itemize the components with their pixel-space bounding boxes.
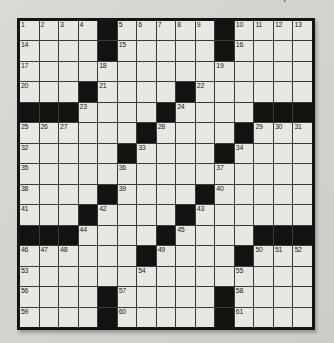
grid-cell[interactable] bbox=[118, 82, 137, 101]
grid-cell[interactable]: 19 bbox=[215, 62, 234, 81]
grid-cell[interactable] bbox=[254, 41, 273, 60]
grid-cell[interactable] bbox=[176, 287, 195, 306]
grid-cell[interactable] bbox=[176, 246, 195, 265]
grid-cell[interactable]: 60 bbox=[118, 308, 137, 327]
grid-cell[interactable] bbox=[176, 144, 195, 163]
grid-cell[interactable] bbox=[98, 267, 117, 286]
grid-cell[interactable]: 13 bbox=[293, 21, 312, 40]
grid-cell[interactable]: 20 bbox=[20, 82, 39, 101]
grid-cell[interactable]: 58 bbox=[235, 287, 254, 306]
grid-cell[interactable]: 50 bbox=[254, 246, 273, 265]
grid-cell[interactable] bbox=[59, 205, 78, 224]
grid-cell[interactable] bbox=[118, 62, 137, 81]
grid-cell[interactable] bbox=[79, 62, 98, 81]
grid-cell[interactable] bbox=[176, 164, 195, 183]
grid-cell[interactable] bbox=[79, 246, 98, 265]
grid-cell[interactable] bbox=[196, 103, 215, 122]
grid-cell[interactable] bbox=[293, 62, 312, 81]
grid-cell[interactable] bbox=[254, 205, 273, 224]
grid-cell[interactable]: 10 bbox=[235, 21, 254, 40]
grid-cell[interactable] bbox=[137, 287, 156, 306]
grid-cell[interactable] bbox=[118, 205, 137, 224]
grid-cell[interactable]: 38 bbox=[20, 185, 39, 204]
grid-cell[interactable] bbox=[293, 308, 312, 327]
grid-cell[interactable] bbox=[157, 267, 176, 286]
grid-cell[interactable] bbox=[137, 226, 156, 245]
grid-cell[interactable] bbox=[79, 287, 98, 306]
grid-cell[interactable] bbox=[79, 144, 98, 163]
grid-cell[interactable]: 34 bbox=[235, 144, 254, 163]
grid-cell[interactable] bbox=[215, 226, 234, 245]
grid-cell[interactable] bbox=[293, 185, 312, 204]
grid-cell[interactable] bbox=[40, 41, 59, 60]
grid-cell[interactable]: 18 bbox=[98, 62, 117, 81]
grid-cell[interactable] bbox=[235, 62, 254, 81]
grid-cell[interactable] bbox=[157, 287, 176, 306]
grid-cell[interactable] bbox=[215, 205, 234, 224]
grid-cell[interactable] bbox=[176, 41, 195, 60]
grid-cell[interactable] bbox=[98, 246, 117, 265]
grid-cell[interactable]: 44 bbox=[79, 226, 98, 245]
grid-cell[interactable] bbox=[196, 246, 215, 265]
grid-cell[interactable] bbox=[176, 123, 195, 142]
grid-cell[interactable] bbox=[157, 164, 176, 183]
grid-cell[interactable] bbox=[254, 287, 273, 306]
grid-cell[interactable]: 6 bbox=[137, 21, 156, 40]
grid-cell[interactable]: 52 bbox=[293, 246, 312, 265]
grid-cell[interactable] bbox=[40, 144, 59, 163]
grid-cell[interactable] bbox=[118, 267, 137, 286]
grid-cell[interactable] bbox=[293, 287, 312, 306]
grid-cell[interactable]: 35 bbox=[20, 164, 39, 183]
grid-cell[interactable] bbox=[274, 267, 293, 286]
grid-cell[interactable] bbox=[293, 164, 312, 183]
grid-cell[interactable] bbox=[98, 144, 117, 163]
grid-cell[interactable]: 40 bbox=[215, 185, 234, 204]
grid-cell[interactable]: 33 bbox=[137, 144, 156, 163]
grid-cell[interactable] bbox=[274, 185, 293, 204]
grid-cell[interactable]: 48 bbox=[59, 246, 78, 265]
grid-cell[interactable]: 2 bbox=[40, 21, 59, 40]
grid-cell[interactable] bbox=[79, 308, 98, 327]
grid-cell[interactable] bbox=[176, 185, 195, 204]
grid-cell[interactable] bbox=[79, 185, 98, 204]
grid-cell[interactable] bbox=[254, 144, 273, 163]
grid-cell[interactable] bbox=[137, 82, 156, 101]
grid-cell[interactable] bbox=[215, 123, 234, 142]
grid-cell[interactable]: 21 bbox=[98, 82, 117, 101]
grid-cell[interactable] bbox=[215, 267, 234, 286]
grid-cell[interactable] bbox=[137, 41, 156, 60]
grid-cell[interactable] bbox=[59, 164, 78, 183]
grid-cell[interactable]: 27 bbox=[59, 123, 78, 142]
grid-cell[interactable] bbox=[254, 267, 273, 286]
grid-cell[interactable]: 49 bbox=[157, 246, 176, 265]
grid-cell[interactable] bbox=[235, 82, 254, 101]
grid-cell[interactable]: 47 bbox=[40, 246, 59, 265]
grid-cell[interactable] bbox=[59, 308, 78, 327]
grid-cell[interactable] bbox=[59, 62, 78, 81]
grid-cell[interactable] bbox=[235, 205, 254, 224]
grid-cell[interactable] bbox=[235, 185, 254, 204]
grid-cell[interactable]: 7 bbox=[157, 21, 176, 40]
grid-cell[interactable] bbox=[157, 308, 176, 327]
grid-cell[interactable] bbox=[137, 205, 156, 224]
grid-cell[interactable] bbox=[40, 82, 59, 101]
grid-cell[interactable] bbox=[196, 226, 215, 245]
grid-cell[interactable] bbox=[254, 308, 273, 327]
grid-cell[interactable] bbox=[98, 164, 117, 183]
grid-cell[interactable] bbox=[196, 164, 215, 183]
grid-cell[interactable] bbox=[157, 144, 176, 163]
grid-cell[interactable]: 46 bbox=[20, 246, 39, 265]
grid-cell[interactable] bbox=[40, 287, 59, 306]
grid-cell[interactable] bbox=[274, 287, 293, 306]
grid-cell[interactable] bbox=[274, 62, 293, 81]
grid-cell[interactable] bbox=[79, 41, 98, 60]
grid-cell[interactable]: 23 bbox=[79, 103, 98, 122]
grid-cell[interactable] bbox=[59, 144, 78, 163]
grid-cell[interactable] bbox=[79, 164, 98, 183]
grid-cell[interactable] bbox=[274, 308, 293, 327]
grid-cell[interactable] bbox=[196, 308, 215, 327]
grid-cell[interactable] bbox=[196, 123, 215, 142]
grid-cell[interactable] bbox=[59, 185, 78, 204]
grid-cell[interactable] bbox=[98, 103, 117, 122]
grid-cell[interactable] bbox=[40, 267, 59, 286]
